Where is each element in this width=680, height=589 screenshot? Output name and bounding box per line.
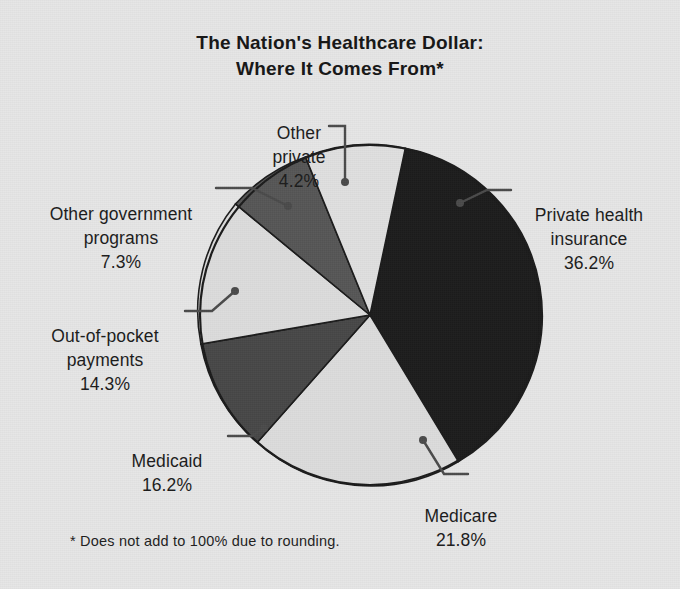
label-out-of-pocket-name: Out-of-pocket payments xyxy=(51,326,158,370)
label-other-private-value: 4.2% xyxy=(243,169,355,193)
label-private-health-insurance-name: Private health insurance xyxy=(535,205,643,249)
label-out-of-pocket-value: 14.3% xyxy=(29,372,181,396)
leader-dot-medicare xyxy=(419,436,427,444)
label-out-of-pocket: Out-of-pocket payments 14.3% xyxy=(29,300,181,420)
chart-canvas: The Nation's Healthcare Dollar: Where It… xyxy=(0,0,680,589)
label-medicaid-value: 16.2% xyxy=(108,473,226,497)
label-other-government-name: Other government programs xyxy=(50,204,193,248)
label-other-government-value: 7.3% xyxy=(26,250,216,274)
label-medicare-value: 21.8% xyxy=(400,528,522,552)
label-other-private-name: Other private xyxy=(272,123,325,167)
label-other-private: Other private 4.2% xyxy=(243,97,355,217)
leader-dot-out-of-pocket xyxy=(231,287,239,295)
chart-footnote: * Does not add to 100% due to rounding. xyxy=(70,533,340,549)
leader-dot-private-health-insurance xyxy=(456,199,464,207)
label-private-health-insurance: Private health insurance 36.2% xyxy=(516,179,662,299)
label-private-health-insurance-value: 36.2% xyxy=(516,251,662,275)
label-other-government: Other government programs 7.3% xyxy=(26,178,216,298)
label-medicaid: Medicaid 16.2% xyxy=(108,425,226,521)
label-medicare-name: Medicare xyxy=(425,506,498,526)
label-medicare: Medicare 21.8% xyxy=(400,480,522,576)
label-medicaid-name: Medicaid xyxy=(132,451,203,471)
leader-dot-medicaid xyxy=(260,424,268,432)
